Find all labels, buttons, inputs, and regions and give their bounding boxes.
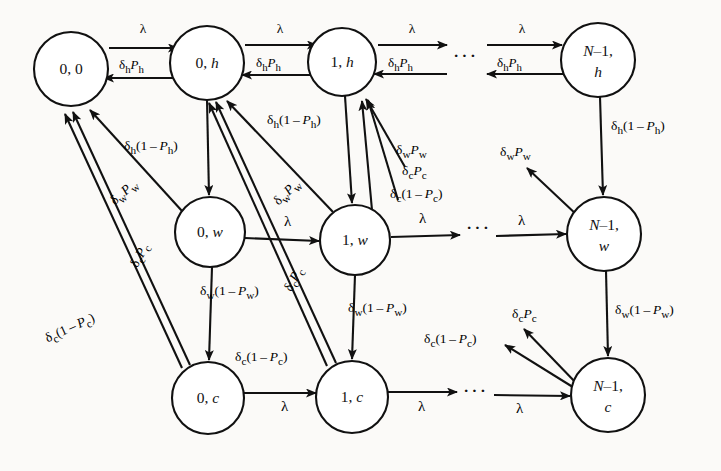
edge-1_c-to-1_h-deltac1mPc: [362, 101, 372, 210]
edge-label-lambda-dots-Nw: λ: [518, 212, 525, 229]
state-node-0-h[interactable]: 0, h: [170, 26, 244, 100]
edge-label-lambda-1w-dots: λ: [419, 210, 426, 227]
state-node-0-w[interactable]: 0, w: [175, 197, 245, 267]
edge-label-lambda-1h-dots: λ: [409, 21, 416, 36]
edge-0_w-to-0_c-deltaw1mPw: [209, 267, 212, 360]
edge-Nm1_w-to-Nm1_c-deltaw1mPw: [606, 271, 608, 356]
edge-label-deltac1mPc-Nc-dots: δc(1 – Pc): [424, 331, 477, 349]
edge-label-deltahPh-dots-1h: δhPh: [388, 55, 413, 73]
node-label-1-c: 1, c: [341, 388, 364, 405]
edge-Nm1_c-to-dots-deltacPc: [524, 329, 578, 385]
edge-0_w-to-1_w-lambda: [245, 238, 319, 241]
edge-label-deltaw1mPw-1w-1c: δw(1 – Pw): [348, 300, 407, 318]
edge-label-lambda-dots-Nc: λ: [516, 400, 523, 417]
ellipsis-row-w: ···: [466, 215, 491, 240]
node-label-0-w: 0, w: [197, 223, 224, 240]
state-node-0-0[interactable]: 0, 0: [34, 32, 108, 106]
edge-label-deltaw1mPw-0w-0c: δw(1 – Pw): [200, 283, 259, 301]
state-node-1-h[interactable]: 1, h: [308, 28, 376, 96]
edge-Nm1_w-to-dots-deltawPw: [527, 168, 578, 216]
ellipsis-row-c: ···: [463, 378, 488, 403]
state-node-Nm1-c[interactable]: N–1, c: [571, 358, 645, 432]
state-transition-graph: 0, 0 0, h 1, h N–1, h 0, w 1, w: [0, 0, 721, 471]
node-label-Nm1-h-line2: h: [594, 63, 602, 80]
node-label-Nm1-c-line2: c: [605, 398, 612, 415]
markov-chain-diagram: 0, 0 0, h 1, h N–1, h 0, w 1, w: [0, 0, 721, 471]
edge-label-lambda-00-0h: λ: [140, 21, 147, 36]
edge-1_w-to-dots-lambda: [391, 235, 460, 237]
edge-label-lambda-0h-1h: λ: [277, 21, 284, 36]
edge-label-deltah1mPh-0h-0w: δh(1 – Ph): [124, 138, 178, 156]
edge-label-deltac1mPc-0c-1c: δc(1 – Pc): [235, 349, 288, 367]
edge-label-deltacPc-1c-1h: δcPc: [402, 163, 427, 181]
edge-dots-to-Nm1_w-lambda: [496, 234, 566, 236]
edge-label-lambda-1c-dots: λ: [418, 398, 425, 415]
edge-Nm1_c-to-dots-deltac1mPc: [505, 345, 576, 389]
edge-label-lambda-0c-1c: λ: [281, 398, 288, 415]
edge-dots-to-Nm1_c-lambda: [494, 395, 570, 396]
edge-1_h-to-1_w-deltah1mPh: [345, 96, 352, 203]
state-node-1-w[interactable]: 1, w: [320, 205, 390, 275]
edge-label-lambda-0w-1w: λ: [284, 213, 291, 230]
state-node-0-c[interactable]: 0, c: [172, 362, 244, 434]
edge-label-deltaw1mPw-Nw-Nc: δw(1 – Pw): [615, 302, 674, 320]
edge-label-deltahPh-Nh-dots: δhPh: [497, 55, 522, 73]
node-label-1-h: 1, h: [330, 53, 354, 70]
edge-label-deltacPc-Nc-dots: δcPc: [512, 306, 537, 324]
edge-Nm1_h-to-Nm1_w-deltah1mPh: [600, 97, 603, 195]
node-label-0-h: 0, h: [195, 54, 219, 71]
edge-label-deltahPh-1h-0h: δhPh: [256, 55, 281, 73]
node-label-Nm1-w-line1: N–1,: [588, 216, 619, 233]
edge-0_h-to-0_w-deltah1mPh: [207, 100, 209, 195]
edge-1_c-to-1_h-deltacPc: [368, 100, 398, 200]
state-node-1-c[interactable]: 1, c: [316, 361, 388, 433]
node-label-Nm1-h-line1: N–1,: [582, 42, 613, 59]
node-label-Nm1-w-line2: w: [599, 237, 610, 254]
node-label-0-c: 0, c: [197, 389, 220, 406]
edge-label-deltawPw-Nw-dots: δwPw: [500, 144, 531, 162]
node-label-1-w: 1, w: [342, 231, 369, 248]
state-node-Nm1-w[interactable]: N–1, w: [567, 197, 641, 271]
edge-label-deltac1mPc-1c-1h: δc(1 – Pc): [390, 186, 443, 204]
edge-label-deltahPh-0h-00: δhPh: [119, 57, 144, 75]
edge-label-deltah1mPh-Nh-Nw: δh(1 – Ph): [611, 118, 665, 136]
edge-label-deltah1mPh-1h-1w: δh(1 – Ph): [267, 112, 321, 130]
node-label-Nm1-c-line1: N–1,: [592, 377, 623, 394]
edge-label-deltawPw-1w-1h: δwPw: [396, 142, 427, 160]
ellipsis-row-h: ···: [453, 43, 478, 68]
node-label-0-0: 0, 0: [59, 60, 83, 77]
edge-label-lambda-dots-Nh: λ: [519, 21, 526, 36]
state-node-Nm1-h[interactable]: N–1, h: [561, 23, 635, 97]
